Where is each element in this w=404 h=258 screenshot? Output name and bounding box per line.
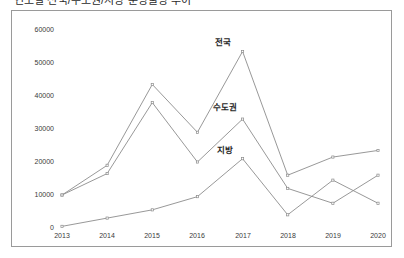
data-point — [287, 174, 289, 176]
data-point — [196, 161, 198, 163]
y-tick-50000: 50000 — [10, 59, 54, 67]
data-point — [151, 209, 153, 211]
x-tick-2016: 2016 — [177, 232, 217, 240]
data-point — [196, 196, 198, 198]
data-point — [196, 131, 198, 133]
y-tick-20000: 20000 — [10, 158, 54, 166]
line-chart-svg — [0, 0, 404, 258]
data-point — [151, 102, 153, 104]
data-point — [377, 149, 379, 151]
data-point — [287, 214, 289, 216]
plot-area — [0, 0, 404, 258]
series-label-provinces: 지방 — [217, 143, 233, 155]
data-point — [332, 156, 334, 158]
y-tick-0: 0 — [10, 224, 54, 232]
data-point — [241, 118, 243, 120]
series-label-nationwide: 전국 — [215, 35, 231, 47]
data-point — [241, 158, 243, 160]
data-point — [377, 202, 379, 204]
x-tick-2014: 2014 — [87, 232, 127, 240]
data-point — [61, 225, 63, 227]
data-point — [106, 217, 108, 219]
data-point — [287, 187, 289, 189]
y-tick-40000: 40000 — [10, 92, 54, 100]
data-point — [332, 179, 334, 181]
y-tick-60000: 60000 — [10, 26, 54, 34]
data-point — [106, 172, 108, 174]
series-label-capital-area: 수도권 — [213, 100, 237, 112]
x-tick-2020: 2020 — [358, 232, 398, 240]
x-tick-2019: 2019 — [313, 232, 353, 240]
data-point — [332, 202, 334, 204]
y-tick-30000: 30000 — [10, 125, 54, 133]
series-line-0 — [62, 51, 378, 195]
data-point — [106, 164, 108, 166]
chart-screenshot: 연도별 전국/수도권/지방 분양물량 추이 60000 50000 40000 … — [0, 0, 404, 258]
x-tick-2013: 2013 — [42, 232, 82, 240]
data-point — [151, 83, 153, 85]
data-point — [377, 174, 379, 176]
data-point — [241, 50, 243, 52]
series-line-2 — [62, 159, 378, 227]
y-tick-10000: 10000 — [10, 191, 54, 199]
x-tick-2017: 2017 — [223, 232, 263, 240]
x-tick-2018: 2018 — [268, 232, 308, 240]
x-tick-2015: 2015 — [132, 232, 172, 240]
data-point — [61, 194, 63, 196]
